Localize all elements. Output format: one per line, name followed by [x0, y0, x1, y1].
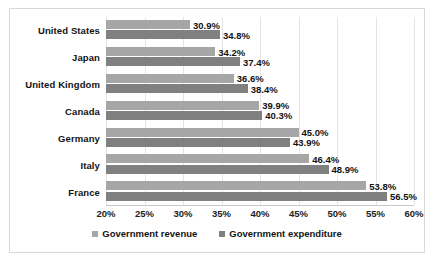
- bar-expenditure: 43.9%: [106, 138, 290, 147]
- bar-expenditure: 40.3%: [106, 111, 262, 120]
- legend-item[interactable]: Government revenue: [92, 228, 197, 239]
- gridline: [414, 17, 415, 205]
- chart-category-row: Canada39.9%40.3%: [106, 98, 414, 125]
- legend-item[interactable]: Government expenditure: [219, 228, 341, 239]
- chart-category-row: United States30.9%34.8%: [106, 17, 414, 44]
- bar-revenue: 34.2%: [106, 47, 215, 56]
- category-axis-label: Japan: [72, 52, 100, 63]
- bar-revenue: 45.0%: [106, 128, 299, 137]
- chart-category-row: Italy46.4%48.9%: [106, 151, 414, 178]
- x-axis-tick-label: 55%: [366, 208, 385, 219]
- chart-category-row: France53.8%56.5%: [106, 178, 414, 205]
- bar-value-label: 34.8%: [223, 29, 250, 40]
- plot-area: United States30.9%34.8%Japan34.2%37.4%Un…: [106, 17, 414, 205]
- x-axis-tick-label: 25%: [135, 208, 154, 219]
- bar-value-label: 34.2%: [218, 46, 245, 57]
- category-axis-label: Italy: [80, 159, 100, 170]
- chart-category-row: Germany45.0%43.9%: [106, 124, 414, 151]
- legend-item-label: Government expenditure: [229, 228, 341, 239]
- bar-revenue: 36.6%: [106, 74, 234, 83]
- bar-revenue: 46.4%: [106, 154, 309, 163]
- bar-revenue: 39.9%: [106, 101, 259, 110]
- bar-value-label: 30.9%: [193, 19, 220, 30]
- chart-legend: Government revenueGovernment expenditure: [10, 228, 424, 239]
- bar-value-label: 56.5%: [390, 191, 417, 202]
- x-axis-tick-label: 50%: [327, 208, 346, 219]
- x-axis-tick-label: 20%: [96, 208, 115, 219]
- category-axis-label: Canada: [65, 105, 100, 116]
- x-axis-tick-label: 45%: [289, 208, 308, 219]
- chart-category-row: United Kingdom36.6%38.4%: [106, 71, 414, 98]
- bar-expenditure: 34.8%: [106, 30, 220, 39]
- x-axis-tick-label: 30%: [173, 208, 192, 219]
- legend-item-label: Government revenue: [102, 228, 197, 239]
- x-axis-tick-label: 40%: [250, 208, 269, 219]
- category-axis-label: United States: [38, 25, 100, 36]
- category-axis-label: United Kingdom: [25, 79, 100, 90]
- bar-expenditure: 37.4%: [106, 57, 240, 66]
- chart-category-row: Japan34.2%37.4%: [106, 44, 414, 71]
- category-axis-label: France: [68, 186, 100, 197]
- x-axis-tick-label: 60%: [404, 208, 423, 219]
- chart-container: United States30.9%34.8%Japan34.2%37.4%Un…: [9, 8, 425, 253]
- bar-value-label: 43.9%: [293, 137, 320, 148]
- bar-expenditure: 38.4%: [106, 84, 248, 93]
- bar-revenue: 53.8%: [106, 181, 366, 190]
- x-axis-tick-label: 35%: [212, 208, 231, 219]
- bar-value-label: 38.4%: [251, 83, 278, 94]
- bar-value-label: 40.3%: [265, 110, 292, 121]
- bar-expenditure: 56.5%: [106, 192, 387, 201]
- bar-value-label: 48.9%: [332, 164, 359, 175]
- x-axis-line: [106, 205, 414, 206]
- bar-revenue: 30.9%: [106, 20, 190, 29]
- x-axis-tick-labels: 20%25%30%35%40%45%50%55%60%: [106, 208, 414, 222]
- square-swatch-icon: [219, 231, 225, 237]
- category-axis-label: Germany: [58, 132, 100, 143]
- bar-value-label: 37.4%: [243, 56, 270, 67]
- square-swatch-icon: [92, 231, 98, 237]
- bar-expenditure: 48.9%: [106, 165, 329, 174]
